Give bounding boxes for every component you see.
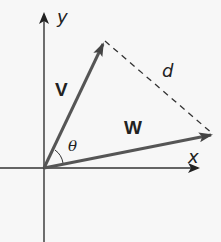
vector-v-label: V [55,80,68,99]
vector-diagram: y x V W d θ [0,0,221,242]
distance-line [105,41,213,134]
angle-arc [55,150,63,163]
x-axis-label: x [188,148,199,166]
angle-label: θ [68,139,77,154]
distance-label: d [162,62,173,80]
diagram-svg [0,0,221,242]
vector-w-label: W [124,118,142,137]
y-axis-label: y [57,8,68,26]
